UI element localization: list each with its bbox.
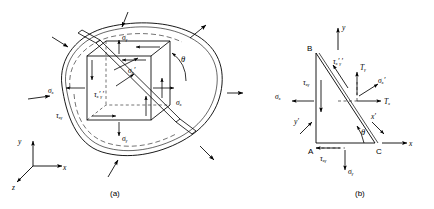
axis-label-y-a: y xyxy=(17,137,22,146)
wedge-triangle xyxy=(316,53,378,143)
vertex-label-b-point: B xyxy=(307,44,312,53)
stress-element-cube xyxy=(87,41,170,120)
external-load-arrows xyxy=(28,12,243,177)
wedge-stress-dashed xyxy=(316,82,357,148)
label-sigma-y-bottom-a: σᵧ xyxy=(122,134,128,143)
label-theta-a: θ xyxy=(181,54,185,64)
label-tau-xy-bottom-b: τₓᵧ xyxy=(320,154,327,163)
label-tau-xp-yp-b: τₓ′ᵧ′ xyxy=(333,57,343,66)
axis-label-x-a: x xyxy=(62,163,67,172)
figure-stress-transformation: y x z σₓ σₓ σᵧ σᵧ τₓᵧ σₓ′ τₓ′ᵧ′ θ (a) xyxy=(0,0,434,209)
inclined-plane xyxy=(78,30,196,134)
body-outline xyxy=(61,23,222,156)
figure-canvas: y x z σₓ σₓ σᵧ σᵧ τₓᵧ σₓ′ τₓ′ᵧ′ θ (a) xyxy=(0,0,434,209)
label-theta-b: θ xyxy=(361,127,365,137)
label-sigma-x-b: σₓ xyxy=(275,92,281,101)
caption-panel-a: (a) xyxy=(110,189,120,198)
label-sigma-x-left-a: σₓ xyxy=(48,86,54,95)
label-tau-xy-a: τₓᵧ xyxy=(56,111,63,120)
vertex-label-a-point: A xyxy=(308,147,314,156)
primed-axes-b xyxy=(300,122,384,134)
label-sigma-x-right-a: σₓ xyxy=(176,98,182,107)
axis-label-y-b: y xyxy=(341,23,346,32)
vertex-label-c-point: C xyxy=(376,147,382,156)
label-tau-xp-yp-a: τₓ′ᵧ′ xyxy=(94,90,104,99)
axis-label-y-prime-b: y′ xyxy=(293,117,299,126)
axis-label-x-b: x xyxy=(408,139,413,148)
label-sigma-y-top-a: σᵧ xyxy=(122,33,128,42)
label-sigma-y-b: σᵧ xyxy=(348,167,354,176)
label-t-y-b: Tᵧ xyxy=(360,63,366,72)
label-t-x-b: Tₓ xyxy=(384,97,390,106)
axis-label-z-a: z xyxy=(11,183,15,192)
panel-b-group: B A C y x y′ x′ τₓᵧ σₓ τₓ′ᵧ′ Tᵧ Tₓ σₓ′ τ… xyxy=(275,23,413,198)
coordinate-triad-a xyxy=(17,141,62,182)
axis-label-x-prime-b: x′ xyxy=(370,112,376,121)
tau-xpyp-arrow-b xyxy=(333,65,348,88)
axes-b xyxy=(338,28,407,143)
label-tau-xy-left-b: τₓᵧ xyxy=(303,78,310,87)
panel-a-group: y x z σₓ σₓ σᵧ σᵧ τₓᵧ σₓ′ τₓ′ᵧ′ θ (a) xyxy=(11,12,243,198)
label-sigma-x-prime-a: σₓ′ xyxy=(128,66,136,75)
element-stress-arrows xyxy=(66,40,174,136)
caption-panel-b: (b) xyxy=(355,189,365,198)
label-sigma-x-prime-b: σₓ′ xyxy=(378,76,386,85)
